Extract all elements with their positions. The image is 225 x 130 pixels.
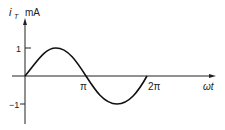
y-label-sub: T	[14, 13, 19, 20]
y-axis-arrow	[23, 18, 27, 25]
y-label-main: i	[9, 6, 12, 18]
y-label-unit: mA	[25, 7, 40, 18]
x-axis-arrow	[209, 74, 216, 78]
tick-label-pi: π	[80, 81, 87, 92]
chart: i T mA 1 −1 π 2π ωt	[0, 0, 225, 130]
x-axis-label: ωt	[203, 81, 215, 92]
tick-label-neg1: −1	[9, 100, 19, 110]
tick-label-1: 1	[16, 44, 21, 54]
tick-label-2pi: 2π	[148, 81, 161, 92]
